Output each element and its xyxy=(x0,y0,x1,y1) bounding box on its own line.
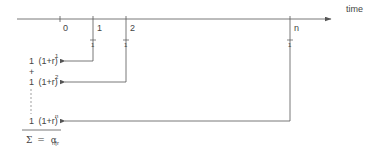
time-axis-label: time xyxy=(346,4,363,14)
svg-text:n: n xyxy=(55,113,58,119)
svg-text:1 (1+r): 1 (1+r) xyxy=(29,116,58,126)
sum-result: Σ = α n|r xyxy=(26,135,59,146)
plus-sign: + xyxy=(29,67,34,77)
annuity-timeline-diagram: time 0 1 1 2 1 n 1 1 (1+r) 1 + 1 (1+r) 2 xyxy=(0,0,379,154)
svg-text:1: 1 xyxy=(55,53,59,59)
svg-text:1 (1+r): 1 (1+r) xyxy=(29,77,58,87)
payment-2: 1 xyxy=(124,42,128,48)
term-n: 1 (1+r) n xyxy=(29,113,58,126)
tick-label-0: 0 xyxy=(63,23,68,33)
tick-label-2: 2 xyxy=(130,23,135,33)
tick-label-n: n xyxy=(294,23,299,33)
payment-1: 1 xyxy=(91,42,95,48)
payment-n: 1 xyxy=(288,42,292,48)
svg-text:2: 2 xyxy=(55,74,59,80)
svg-text:1 (1+r): 1 (1+r) xyxy=(29,56,58,66)
svg-text:n|r: n|r xyxy=(52,140,59,146)
term-1: 1 (1+r) 1 xyxy=(29,53,59,66)
tick-label-1: 1 xyxy=(97,23,102,33)
